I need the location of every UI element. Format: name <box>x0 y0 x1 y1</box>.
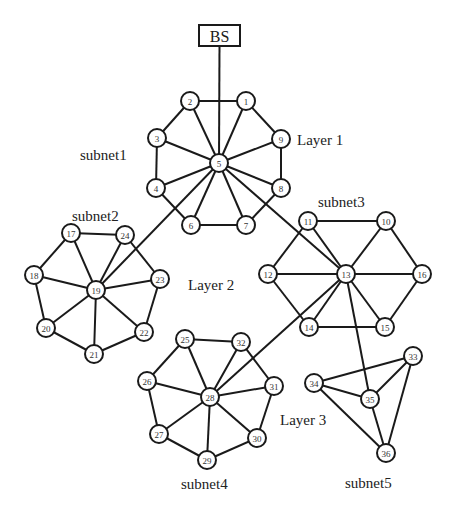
node-label: 2 <box>188 97 193 107</box>
node-label: 1 <box>244 97 249 107</box>
node-3: 3 <box>148 129 166 147</box>
node-9: 9 <box>272 130 290 148</box>
node-5: 5 <box>210 154 228 172</box>
node-4: 4 <box>147 179 165 197</box>
node-7: 7 <box>237 216 255 234</box>
node-label: 21 <box>90 350 99 360</box>
node-label: 18 <box>30 271 40 281</box>
node-label: 17 <box>67 229 77 239</box>
node-29: 29 <box>198 451 216 469</box>
node-35: 35 <box>361 390 379 408</box>
network-diagram: BS 1234567891011121314151617181920212223… <box>0 0 456 517</box>
node-label: 14 <box>305 323 315 333</box>
node-6: 6 <box>182 216 200 234</box>
node-label: 16 <box>418 270 428 280</box>
caption-layer3: Layer 3 <box>280 412 326 428</box>
node-label: 26 <box>143 377 153 387</box>
caption-layer2: Layer 2 <box>188 277 234 293</box>
caption-subnet4: subnet4 <box>181 476 228 492</box>
node-label: 13 <box>342 270 352 280</box>
caption-subnet2: subnet2 <box>72 208 119 224</box>
node-26: 26 <box>138 372 156 390</box>
node-17: 17 <box>62 224 80 242</box>
node-label: 19 <box>92 286 102 296</box>
node-label: 34 <box>310 379 320 389</box>
node-23: 23 <box>151 270 169 288</box>
node-10: 10 <box>377 212 395 230</box>
edge-14-12 <box>268 274 309 327</box>
node-24: 24 <box>116 226 134 244</box>
node-30: 30 <box>248 429 266 447</box>
node-31: 31 <box>265 377 283 395</box>
node-1: 1 <box>237 92 255 110</box>
node-label: 20 <box>42 324 52 334</box>
node-label: 10 <box>382 217 392 227</box>
node-label: 12 <box>264 270 273 280</box>
node-label: 35 <box>366 395 376 405</box>
node-27: 27 <box>150 425 168 443</box>
base-station-label: BS <box>210 28 230 45</box>
node-label: 4 <box>154 184 159 194</box>
node-21: 21 <box>85 345 103 363</box>
caption-subnet3: subnet3 <box>318 194 365 210</box>
node-15: 15 <box>376 318 394 336</box>
node-label: 32 <box>237 338 246 348</box>
node-label: 30 <box>253 434 263 444</box>
node-32: 32 <box>232 333 250 351</box>
node-label: 36 <box>382 449 392 459</box>
node-8: 8 <box>272 179 290 197</box>
node-label: 11 <box>304 217 313 227</box>
node-label: 28 <box>206 393 216 403</box>
caption-subnet1: subnet1 <box>80 147 127 163</box>
node-34: 34 <box>305 374 323 392</box>
node-label: 24 <box>121 231 131 241</box>
node-label: 33 <box>409 352 419 362</box>
edge-35-13 <box>346 274 370 399</box>
node-label: 9 <box>279 135 284 145</box>
node-25: 25 <box>176 330 194 348</box>
node-label: 15 <box>381 323 391 333</box>
node-label: 8 <box>279 184 284 194</box>
node-22: 22 <box>135 323 153 341</box>
node-12: 12 <box>259 265 277 283</box>
base-station: BS <box>199 25 240 163</box>
node-label: 31 <box>270 382 279 392</box>
node-20: 20 <box>37 319 55 337</box>
node-label: 23 <box>156 275 166 285</box>
node-2: 2 <box>181 92 199 110</box>
node-label: 7 <box>244 221 249 231</box>
node-label: 29 <box>203 456 213 466</box>
node-label: 25 <box>181 335 191 345</box>
node-18: 18 <box>25 266 43 284</box>
node-36: 36 <box>377 444 395 462</box>
node-28: 28 <box>201 388 219 406</box>
node-label: 6 <box>189 221 194 231</box>
node-label: 27 <box>155 430 165 440</box>
node-label: 22 <box>140 328 149 338</box>
caption-subnet5: subnet5 <box>345 475 392 491</box>
node-label: 3 <box>155 134 160 144</box>
node-label: 5 <box>217 159 222 169</box>
node-13: 13 <box>337 265 355 283</box>
node-11: 11 <box>299 212 317 230</box>
node-16: 16 <box>413 265 431 283</box>
node-19: 19 <box>87 281 105 299</box>
base-station-link <box>219 46 220 163</box>
node-14: 14 <box>300 318 318 336</box>
caption-layer1: Layer 1 <box>297 132 343 148</box>
node-33: 33 <box>404 347 422 365</box>
